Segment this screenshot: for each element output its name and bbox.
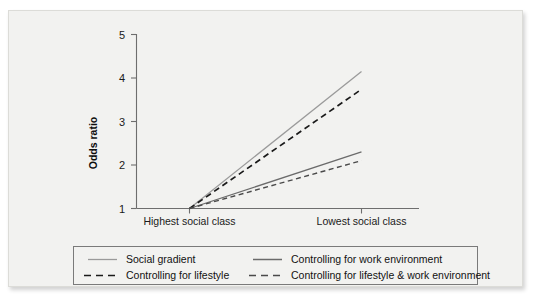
series-line-social-gradient xyxy=(190,71,362,208)
legend-label-controlling-work-environment: Controlling for work environment xyxy=(291,253,442,265)
legend-entry-controlling-work-environment[interactable]: Controlling for work environment xyxy=(253,253,442,265)
x-category-label-lowest: Lowest social class xyxy=(317,215,407,227)
y-tick-label-4: 4 xyxy=(119,72,125,84)
x-category-labels: Highest social class Lowest social class xyxy=(143,215,406,227)
figure-page: Odds ratio 5 4 3 2 1 xyxy=(8,10,523,287)
legend-entry-controlling-lifestyle[interactable]: Controlling for lifestyle xyxy=(84,269,229,281)
series-controlling-work-environment xyxy=(190,152,362,209)
y-tick-label-1: 1 xyxy=(119,203,125,215)
series-line-controlling-lifestyle xyxy=(190,89,362,208)
y-tick-labels: 5 4 3 2 1 xyxy=(119,29,125,215)
legend-label-controlling-lifestyle-work-environment: Controlling for lifestyle & work environ… xyxy=(291,269,490,281)
y-tick-label-2: 2 xyxy=(119,159,125,171)
legend-entry-social-gradient[interactable]: Social gradient xyxy=(88,253,196,265)
y-axis-title-text: Odds ratio xyxy=(87,117,99,170)
y-axis-title: Odds ratio xyxy=(87,117,99,170)
series-line-controlling-lifestyle-work-environment xyxy=(190,161,362,209)
y-tick-label-3: 3 xyxy=(119,116,125,128)
legend-entry-controlling-lifestyle-work-environment[interactable]: Controlling for lifestyle & work environ… xyxy=(249,269,490,281)
series-controlling-lifestyle-work-environment xyxy=(190,161,362,209)
series-social-gradient xyxy=(190,71,362,208)
x-tick-marks xyxy=(190,209,362,214)
y-tick-label-5: 5 xyxy=(119,29,125,41)
series-line-controlling-work-environment xyxy=(190,152,362,209)
legend-label-controlling-lifestyle: Controlling for lifestyle xyxy=(126,269,229,281)
legend-label-social-gradient: Social gradient xyxy=(126,253,196,265)
y-tick-marks xyxy=(131,35,137,209)
legend: Social gradient Controlling for work env… xyxy=(74,247,491,285)
series-controlling-lifestyle xyxy=(190,89,362,208)
chart-area: Odds ratio 5 4 3 2 1 xyxy=(9,11,524,288)
x-category-label-highest: Highest social class xyxy=(143,215,235,227)
